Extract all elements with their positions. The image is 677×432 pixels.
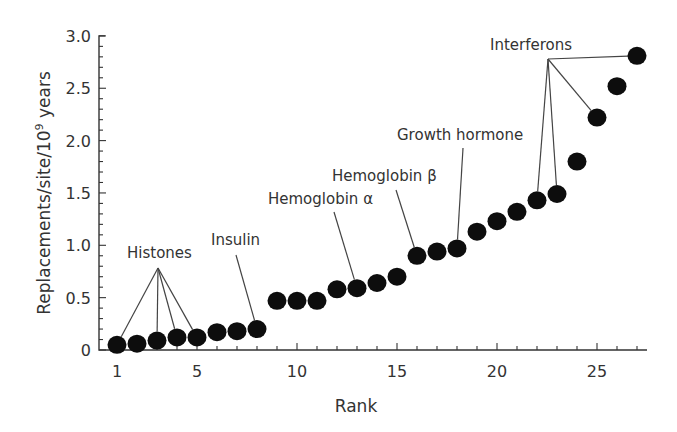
x-tick-label: 20 <box>487 362 507 381</box>
data-point <box>108 336 127 354</box>
y-tick-label: 0.5 <box>66 289 91 308</box>
x-tick-label: 10 <box>287 362 307 381</box>
annotation-leader-line <box>548 56 628 59</box>
y-tick-label: 2.0 <box>66 132 91 151</box>
data-point <box>228 322 247 340</box>
annotation-leader-line <box>121 268 158 337</box>
annotation-leader-line <box>548 59 591 111</box>
y-axis-title-text: Replacements/site/109 years <box>33 71 54 315</box>
y-tick-label: 3.0 <box>66 27 91 46</box>
data-point <box>428 243 447 261</box>
annotation-insulin: Insulin <box>211 231 260 249</box>
y-tick-label: 1.0 <box>66 236 91 255</box>
data-point <box>188 328 207 346</box>
annotation-leader-line <box>548 59 556 185</box>
data-point <box>448 239 467 257</box>
annotation-hemoglobin: Hemoglobin α <box>268 190 373 208</box>
data-point <box>148 332 167 350</box>
data-point <box>548 185 567 203</box>
data-point <box>308 292 327 310</box>
data-point <box>488 212 507 230</box>
x-tick-label: 15 <box>387 362 407 381</box>
annotation-leader-line <box>157 268 158 332</box>
annotation-histones: Histones <box>127 244 192 262</box>
x-tick-label: 5 <box>192 362 202 381</box>
annotation-leader-line <box>334 212 354 280</box>
data-point <box>388 268 407 286</box>
annotation-growth-hormone: Growth hormone <box>397 126 523 144</box>
y-axis-title: Replacements/site/109 years <box>33 71 54 315</box>
data-point <box>468 223 487 241</box>
x-tick-label: 25 <box>587 362 607 381</box>
y-tick-label: 0 <box>81 341 91 360</box>
data-point <box>528 191 547 209</box>
data-point <box>248 320 267 338</box>
data-point <box>568 153 587 171</box>
data-point <box>168 328 187 346</box>
data-point <box>208 323 227 341</box>
data-points <box>108 47 647 354</box>
data-point <box>628 47 647 65</box>
x-axis-title: Rank <box>335 396 378 416</box>
x-axis-ticks: 1510152025 <box>112 343 637 381</box>
annotation-leader-line <box>458 148 463 239</box>
scatter-chart: Replacements/site/109 years 00.51.01.52.… <box>0 0 677 432</box>
data-point <box>588 109 607 127</box>
data-point <box>408 247 427 265</box>
y-axis-ticks: 00.51.01.52.02.53.0 <box>66 27 106 360</box>
annotation-hemoglobin: Hemoglobin β <box>332 167 437 185</box>
data-point <box>128 335 147 353</box>
annotation-labels: HistonesInsulinHemoglobin αHemoglobin βG… <box>127 36 572 262</box>
annotation-leader-line <box>396 190 414 247</box>
annotation-interferons: Interferons <box>490 36 572 54</box>
data-point <box>508 203 527 221</box>
data-point <box>368 274 387 292</box>
x-tick-label: 1 <box>112 362 122 381</box>
data-point <box>608 77 627 95</box>
annotation-leader-line <box>158 268 175 329</box>
data-point <box>348 279 367 297</box>
annotation-leader-line <box>236 255 255 320</box>
data-point <box>288 292 307 310</box>
annotation-leader-line <box>538 59 548 191</box>
y-tick-label: 2.5 <box>66 79 91 98</box>
data-point <box>268 292 287 310</box>
annotation-leader-line <box>158 268 193 330</box>
data-point <box>328 280 347 298</box>
y-tick-label: 1.5 <box>66 184 91 203</box>
